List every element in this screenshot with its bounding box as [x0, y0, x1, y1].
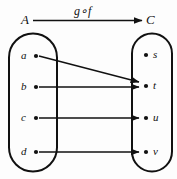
- element-label-u: u: [153, 112, 159, 123]
- composition-mapping-diagram: A C g∘f a b c d s t u v: [0, 0, 177, 179]
- dot-s: [144, 53, 148, 57]
- element-label-b: b: [21, 81, 27, 92]
- element-label-c: c: [21, 112, 26, 123]
- element-label-v: v: [153, 146, 158, 157]
- element-label-t: t: [153, 80, 156, 91]
- dot-d: [34, 150, 38, 154]
- dot-a: [34, 54, 38, 58]
- dot-u: [144, 116, 148, 120]
- mapping-label: g∘f: [74, 5, 91, 17]
- dot-t: [144, 84, 148, 88]
- element-label-a: a: [21, 50, 27, 61]
- set-c-outline: [132, 34, 172, 172]
- dot-v: [144, 150, 148, 154]
- dot-c: [34, 116, 38, 120]
- arrow-a-to-t: [39, 56, 139, 82]
- element-label-d: d: [21, 146, 27, 157]
- dot-b: [34, 85, 38, 89]
- element-label-s: s: [153, 49, 157, 60]
- set-a-label: A: [21, 13, 29, 26]
- set-a-outline: [9, 34, 57, 172]
- set-c-label: C: [146, 13, 155, 26]
